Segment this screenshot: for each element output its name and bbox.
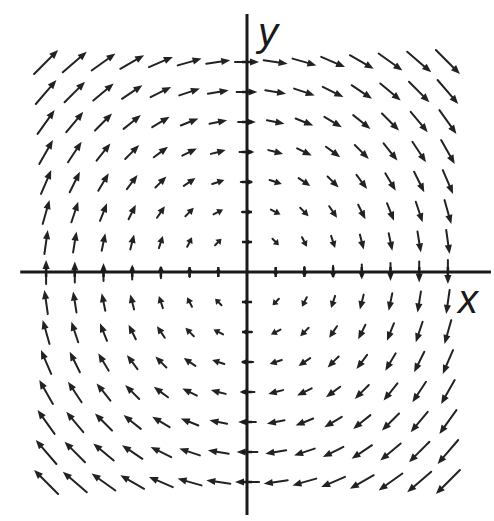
vector-arrow — [321, 57, 345, 67]
vector-arrow — [301, 237, 308, 247]
arrow-head — [98, 353, 106, 363]
vector-arrow — [300, 328, 308, 336]
arrow-head — [182, 388, 192, 395]
arrow-shaft — [447, 320, 451, 335]
arrow-shaft — [217, 452, 229, 454]
vector-arrow — [438, 440, 459, 464]
vector-arrow — [414, 352, 424, 373]
arrow-shaft — [39, 148, 48, 164]
arrow-head — [211, 389, 220, 396]
vector-arrow — [38, 410, 55, 434]
arrow-shaft — [45, 358, 52, 374]
arrow-head — [444, 305, 451, 315]
vector-arrow — [387, 323, 394, 341]
arrow-shaft — [93, 89, 107, 100]
arrow-head — [270, 358, 278, 365]
vector-arrow — [441, 380, 455, 404]
arrow-shaft — [276, 330, 280, 332]
vector-arrow — [415, 322, 422, 343]
arrow-head — [187, 148, 197, 155]
arrow-shaft — [219, 302, 222, 305]
vector-arrow — [350, 55, 374, 69]
arrow-shaft — [305, 297, 307, 301]
arrow-shaft — [276, 299, 279, 302]
vector-arrow — [186, 237, 193, 247]
arrow-head — [162, 87, 172, 94]
vector-arrow — [157, 326, 165, 338]
arrow-head — [330, 240, 337, 248]
arrow-shaft — [264, 60, 279, 62]
vector-arrow — [387, 293, 394, 311]
arrow-shaft — [161, 303, 163, 309]
arrow-head — [418, 153, 426, 162]
vector-arrow — [158, 296, 165, 308]
vector-arrow — [210, 119, 228, 126]
arrow-shaft — [384, 143, 392, 153]
arrow-head — [358, 330, 365, 340]
arrow-head — [416, 213, 423, 223]
arrow-head — [158, 296, 165, 304]
arrow-shaft — [120, 60, 136, 69]
arrow-shaft — [299, 178, 304, 182]
arrow-shaft — [127, 182, 132, 189]
vector-arrow — [187, 297, 194, 307]
arrow-shaft — [332, 417, 342, 423]
vector-arrow — [95, 114, 112, 131]
vector-arrow — [129, 325, 136, 340]
arrow-head — [444, 334, 451, 344]
vector-arrow — [34, 50, 58, 74]
vector-arrow — [358, 325, 365, 340]
vector-arrow — [63, 52, 87, 73]
vector-arrow — [384, 383, 398, 400]
vector-arrow — [36, 440, 57, 464]
arrow-shaft — [267, 120, 276, 122]
arrow-shaft — [271, 210, 275, 212]
arrow-shaft — [353, 115, 363, 123]
arrow-shaft — [355, 145, 363, 153]
vector-arrow — [265, 89, 286, 96]
arrow-head — [179, 448, 189, 455]
vector-arrow — [206, 478, 230, 485]
vector-arrow — [415, 292, 422, 313]
vector-arrow — [157, 236, 164, 248]
arrow-head — [100, 293, 107, 303]
arrow-shaft — [362, 325, 365, 332]
vector-arrow — [268, 148, 283, 155]
arrow-shaft — [443, 170, 450, 186]
arrow-head — [441, 394, 449, 404]
arrow-shaft — [155, 183, 160, 188]
vector-arrow — [271, 329, 281, 336]
arrow-head — [446, 184, 453, 194]
vector-arrow — [149, 57, 173, 67]
arrow-shaft — [382, 114, 393, 125]
vector-arrow — [411, 112, 428, 132]
arrow-head — [305, 89, 315, 96]
vector-arrow — [122, 445, 142, 459]
vector-arrow — [125, 145, 139, 159]
arrow-shaft — [387, 444, 401, 455]
arrow-head — [268, 388, 277, 395]
vector-arrow — [268, 388, 283, 395]
arrow-shaft — [71, 448, 85, 462]
vector-arrow — [185, 328, 193, 336]
vector-arrow — [71, 292, 78, 313]
arrow-head — [68, 382, 76, 391]
arrow-shaft — [74, 330, 78, 342]
vector-arrow — [441, 140, 455, 164]
vector-arrow — [34, 470, 58, 494]
vector-arrow — [215, 299, 221, 305]
arrow-head — [387, 211, 394, 221]
arrow-shaft — [71, 210, 75, 222]
arrow-shaft — [304, 419, 313, 423]
vector-arrow — [296, 119, 314, 126]
arrow-shaft — [190, 332, 194, 336]
arrow-shaft — [417, 382, 426, 395]
vector-arrow — [124, 115, 141, 129]
arrow-shaft — [302, 237, 304, 241]
vector-arrow — [97, 143, 111, 160]
vector-arrow — [439, 110, 456, 134]
arrow-shaft — [215, 242, 218, 245]
arrow-shaft — [334, 326, 338, 331]
vector-arrow — [36, 80, 57, 104]
arrow-head — [416, 243, 423, 253]
